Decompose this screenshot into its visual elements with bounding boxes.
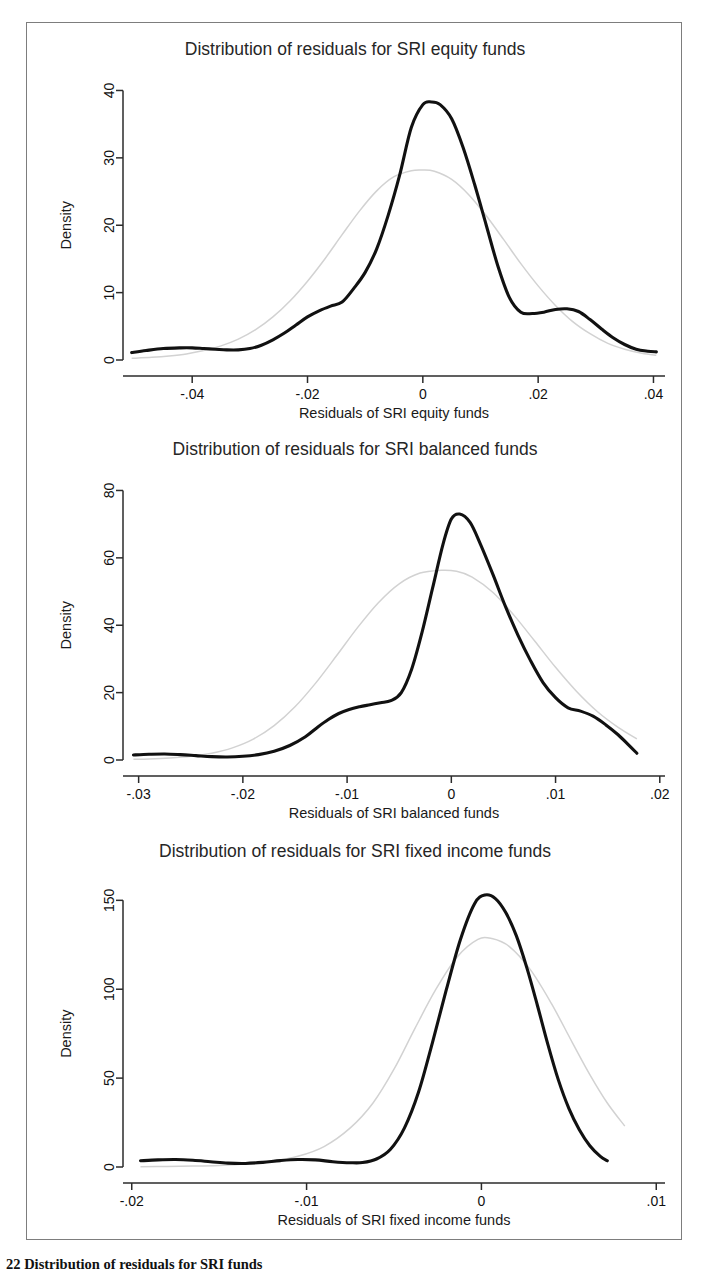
figure-frame: Distribution of residuals for SRI equity…: [26, 22, 682, 1240]
x-axis-label: Residuals of SRI equity funds: [299, 405, 489, 421]
y-tick-label: 40: [101, 82, 117, 98]
y-tick-label: 0: [101, 1163, 117, 1171]
x-tick-label: .02: [650, 786, 670, 802]
y-tick-label: 0: [101, 356, 117, 364]
y-tick-label: 60: [101, 550, 117, 566]
x-tick-label: -.02: [231, 786, 255, 802]
x-tick-label: -.01: [335, 786, 359, 802]
x-tick-label: .01: [546, 786, 566, 802]
x-axis-label: Residuals of SRI balanced funds: [289, 805, 499, 821]
y-tick-label: 100: [101, 977, 117, 1001]
x-tick-label: 0: [419, 386, 427, 402]
x-tick-label: -.02: [295, 386, 319, 402]
kernel-density-curve: [140, 895, 607, 1164]
figure-caption: 22 Distribution of residuals for SRI fun…: [6, 1256, 706, 1273]
x-tick-label: 0: [447, 786, 455, 802]
y-axis-label: Density: [58, 200, 74, 249]
kernel-density-curve: [133, 514, 636, 757]
y-tick-label: 30: [101, 150, 117, 166]
x-tick-label: -.03: [127, 786, 151, 802]
x-axis-label: Residuals of SRI fixed income funds: [278, 1212, 511, 1228]
y-tick-label: 50: [101, 1070, 117, 1086]
chart-panel-balanced: Distribution of residuals for SRI balanc…: [27, 431, 683, 826]
y-tick-label: 20: [101, 217, 117, 233]
y-tick-label: 20: [101, 685, 117, 701]
kernel-density-curve: [132, 102, 657, 353]
chart-title: Distribution of residuals for SRI balanc…: [173, 439, 538, 459]
y-axis-label: Density: [58, 1009, 74, 1058]
x-tick-label: .02: [528, 386, 548, 402]
y-tick-label: 10: [101, 285, 117, 301]
y-tick-label: 0: [101, 756, 117, 764]
x-tick-label: 0: [478, 1193, 486, 1209]
y-axis-label: Density: [58, 600, 74, 649]
chart-svg: Distribution of residuals for SRI equity…: [27, 31, 683, 426]
x-tick-label: -.04: [180, 386, 204, 402]
y-tick-label: 40: [101, 617, 117, 633]
y-tick-label: 150: [101, 888, 117, 912]
chart-panel-fixed-income: Distribution of residuals for SRI fixed …: [27, 833, 683, 1233]
chart-svg: Distribution of residuals for SRI balanc…: [27, 431, 683, 826]
y-tick-label: 80: [101, 482, 117, 498]
normal-density-curve: [140, 937, 624, 1166]
chart-svg: Distribution of residuals for SRI fixed …: [27, 833, 683, 1233]
x-tick-label: .01: [647, 1193, 667, 1209]
chart-panel-equity: Distribution of residuals for SRI equity…: [27, 31, 683, 426]
x-tick-label: -.02: [120, 1193, 144, 1209]
x-tick-label: -.01: [295, 1193, 319, 1209]
chart-title: Distribution of residuals for SRI equity…: [185, 39, 526, 59]
x-tick-label: .04: [644, 386, 664, 402]
chart-title: Distribution of residuals for SRI fixed …: [159, 841, 551, 861]
normal-density-curve: [133, 570, 636, 759]
